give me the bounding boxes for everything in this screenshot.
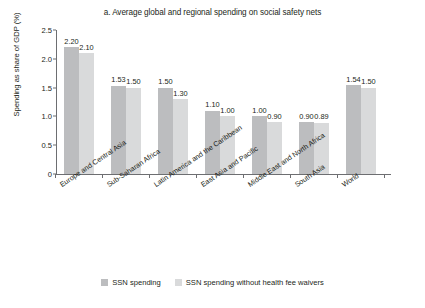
bar[interactable] (158, 88, 173, 174)
bar[interactable] (64, 47, 79, 174)
bar-value-label: 1.53 (111, 75, 125, 84)
chart-legend: SSN spending SSN spending without health… (0, 278, 425, 287)
y-axis-tick-mark (53, 30, 56, 31)
x-axis-tick-mark (149, 174, 150, 178)
bar-value-label: 1.50 (361, 77, 375, 86)
bar-value-label: 1.30 (173, 89, 187, 98)
bar-value-label: 1.50 (126, 77, 140, 86)
y-axis-tick-mark (53, 87, 56, 88)
bar[interactable] (111, 86, 126, 174)
bar[interactable] (346, 85, 361, 174)
x-axis-tick-mark (55, 174, 56, 178)
legend-item-ssn-spending: SSN spending (101, 278, 161, 287)
legend-label: SSN spending (112, 278, 161, 287)
x-axis-tick-mark (243, 174, 244, 178)
y-axis-label: Spending as share of GDP (%) (12, 5, 21, 125)
legend-swatch-icon (101, 279, 108, 286)
bar-group: 1.541.50 (340, 30, 387, 174)
y-axis-tick-mark (53, 116, 56, 117)
bar-value-label: 1.50 (158, 77, 172, 86)
y-axis-tick-mark (53, 145, 56, 146)
bar[interactable] (361, 88, 376, 174)
x-axis-tick-mark (196, 174, 197, 178)
bar-group: 2.202.10 (58, 30, 105, 174)
bar-value-label: 1.10 (205, 100, 219, 109)
legend-label: SSN spending without health fee waivers (186, 278, 324, 287)
bar-value-label: 1.00 (220, 106, 234, 115)
x-axis-tick-mark (337, 174, 338, 178)
bar-value-label: 1.00 (252, 106, 266, 115)
bar-value-label: 1.54 (346, 75, 360, 84)
x-axis-tick-mark (102, 174, 103, 178)
legend-item-ssn-spending-without-health-fee-waivers: SSN spending without health fee waivers (175, 278, 324, 287)
y-axis-tick-mark (53, 58, 56, 59)
x-axis-tick-mark (384, 174, 385, 178)
bar-value-label: 0.90 (267, 112, 281, 121)
bar-value-label: 0.90 (299, 112, 313, 121)
bar-value-label: 2.20 (64, 37, 78, 46)
bar[interactable] (79, 53, 94, 174)
chart-title: a. Average global and regional spending … (0, 8, 425, 17)
bar-value-label: 2.10 (79, 43, 93, 52)
x-axis-tick-mark (290, 174, 291, 178)
legend-swatch-icon (175, 279, 182, 286)
chart-container: a. Average global and regional spending … (0, 0, 425, 308)
bar-value-label: 0.89 (314, 112, 328, 121)
